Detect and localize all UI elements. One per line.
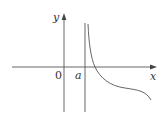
graph-svg: [0, 0, 163, 115]
x-axis-arrow-icon: [150, 65, 157, 70]
origin-label: 0: [55, 70, 62, 81]
asymptote-label: a: [75, 70, 82, 81]
function-curve: [88, 24, 151, 100]
y-axis-arrow-icon: [62, 13, 67, 20]
x-axis-label: x: [150, 71, 156, 82]
function-graph: y 0 a x: [0, 0, 163, 115]
y-axis-label: y: [53, 12, 59, 23]
